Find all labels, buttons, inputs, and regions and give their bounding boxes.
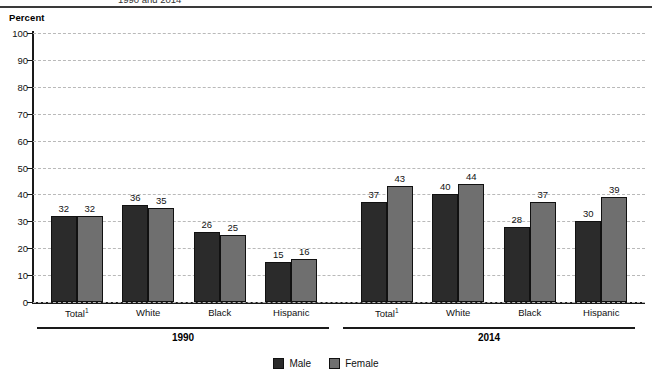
bar-1990-total-male[interactable]: [51, 216, 77, 302]
legend-label-male: Male: [289, 358, 311, 369]
bar-1990-white-male[interactable]: [122, 205, 148, 302]
legend-label-female: Female: [345, 358, 378, 369]
bar-value-label: 37: [537, 189, 548, 200]
title-divider: [0, 6, 652, 8]
y-axis-tick: [27, 33, 33, 34]
bar-1990-black-female[interactable]: [220, 235, 246, 302]
gridline: [33, 168, 645, 169]
y-axis-tick: [27, 87, 33, 88]
bar-2014-black-male[interactable]: [504, 227, 530, 302]
chart-legend: Male Female: [0, 358, 652, 369]
bar-1990-total-female[interactable]: [77, 216, 103, 302]
bar-1990-hispanic-female[interactable]: [291, 259, 317, 302]
legend-item-male[interactable]: Male: [273, 358, 311, 369]
legend-item-female[interactable]: Female: [329, 358, 378, 369]
bar-2014-hispanic-male[interactable]: [575, 221, 601, 302]
year-group-rule: [37, 327, 329, 329]
category-label: Total1: [65, 307, 89, 319]
y-axis-tick: [27, 194, 33, 195]
bar-value-label: 30: [583, 208, 594, 219]
bar-value-label: 36: [130, 192, 141, 203]
category-label: White: [136, 307, 160, 318]
year-group-label: 1990: [172, 332, 194, 343]
gridline: [33, 114, 645, 115]
bar-2014-total-female[interactable]: [387, 186, 413, 302]
y-axis-tick: [27, 114, 33, 115]
clipped-chart-title: 1990 and 2014: [118, 0, 338, 4]
bar-value-label: 32: [58, 203, 69, 214]
bar-2014-total-male[interactable]: [361, 202, 387, 302]
bar-value-label: 16: [299, 246, 310, 257]
gridline: [33, 87, 645, 88]
bar-value-label: 32: [84, 203, 95, 214]
y-axis-tick: [27, 302, 33, 303]
category-label: Black: [208, 307, 231, 318]
category-label: Total1: [375, 307, 399, 319]
year-group-rule: [343, 327, 635, 329]
y-axis-tick: [27, 275, 33, 276]
y-axis-tick-label: 100: [12, 28, 28, 39]
bar-value-label: 44: [466, 171, 477, 182]
year-group-label: 2014: [478, 332, 500, 343]
bar-value-label: 28: [511, 214, 522, 225]
bar-value-label: 15: [273, 249, 284, 260]
bar-chart: 1990 and 2014 Percent 010203040506070809…: [0, 0, 652, 377]
gridline: [33, 302, 645, 303]
bar-value-label: 43: [394, 173, 405, 184]
bar-1990-hispanic-male[interactable]: [265, 262, 291, 302]
bar-value-label: 40: [440, 181, 451, 192]
bar-value-label: 35: [156, 195, 167, 206]
female-swatch-icon: [329, 358, 340, 369]
gridline: [33, 60, 645, 61]
category-label: Hispanic: [583, 307, 619, 318]
bar-2014-white-male[interactable]: [432, 194, 458, 302]
bar-value-label: 37: [368, 189, 379, 200]
y-axis-title: Percent: [9, 12, 45, 23]
category-label: Black: [518, 307, 541, 318]
bar-2014-black-female[interactable]: [530, 202, 556, 302]
gridline: [33, 33, 645, 34]
y-axis-tick: [27, 248, 33, 249]
bar-1990-white-female[interactable]: [148, 208, 174, 302]
y-axis-tick: [27, 168, 33, 169]
plot-area: 32323635262515163743404428373039: [33, 33, 645, 302]
male-swatch-icon: [273, 358, 284, 369]
bar-value-label: 39: [609, 184, 620, 195]
y-axis-tick: [27, 221, 33, 222]
y-axis-tick: [27, 141, 33, 142]
gridline: [33, 141, 645, 142]
y-axis-tick: [27, 60, 33, 61]
y-axis-tick-labels: 0102030405060708090100: [0, 33, 28, 302]
bar-1990-black-male[interactable]: [194, 232, 220, 302]
category-label: White: [446, 307, 470, 318]
bar-value-label: 26: [201, 219, 212, 230]
bar-value-label: 25: [227, 222, 238, 233]
gridline: [33, 194, 645, 195]
category-label: Hispanic: [273, 307, 309, 318]
bar-2014-hispanic-female[interactable]: [601, 197, 627, 302]
bar-2014-white-female[interactable]: [458, 184, 484, 302]
